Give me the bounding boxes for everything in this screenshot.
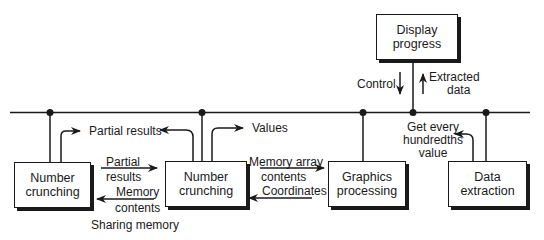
- partial-label-1: Partial: [106, 155, 140, 169]
- memory-label-1: Memory: [116, 185, 159, 199]
- get-every-label-2: hundredths: [394, 133, 472, 147]
- number-crunching-box-2: Number crunching: [165, 161, 247, 207]
- number-crunching-2-line1: Number: [184, 170, 228, 184]
- partial-results-out-arrow: [61, 131, 80, 162]
- display-progress-box: Display progress: [376, 14, 458, 60]
- partial-label-2: results: [106, 170, 141, 184]
- memory-label-2: contents: [115, 201, 160, 215]
- sharing-memory-label: Sharing memory: [91, 218, 179, 232]
- number-crunching-1-line2: crunching: [25, 185, 79, 199]
- partial-results-in-arrow: [160, 130, 193, 162]
- number-crunching-2-line2: crunching: [179, 184, 233, 198]
- partial-results-top-label: Partial results: [89, 124, 162, 138]
- values-label: Values: [252, 121, 288, 135]
- memory-array-label-1: Memory array: [249, 155, 323, 169]
- values-arrow: [212, 128, 243, 162]
- get-every-label-1: Get every: [394, 120, 472, 134]
- extracted-data-label-2: data: [447, 83, 470, 97]
- graphics-processing-box: Graphics processing: [328, 161, 406, 207]
- data-extraction-line1: Data: [474, 170, 500, 184]
- data-extraction-box: Data extraction: [448, 161, 527, 207]
- extracted-data-label-1: Extracted: [429, 70, 480, 84]
- memory-array-label-2: contents: [261, 170, 306, 184]
- display-progress-line1: Display: [397, 23, 438, 37]
- data-extraction-line2: extraction: [460, 184, 514, 198]
- get-every-label-3: value: [394, 146, 472, 160]
- coordinates-label: Coordinates: [262, 184, 327, 198]
- number-crunching-box-1: Number crunching: [14, 162, 91, 208]
- graphics-processing-line1: Graphics: [342, 170, 392, 184]
- graphics-processing-line2: processing: [337, 184, 397, 198]
- display-progress-line2: progress: [393, 37, 442, 51]
- control-label: Control: [357, 77, 396, 91]
- number-crunching-1-line1: Number: [30, 171, 74, 185]
